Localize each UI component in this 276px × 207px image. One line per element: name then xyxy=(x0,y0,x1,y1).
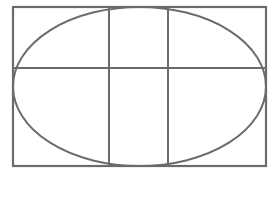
inscribed-ellipse xyxy=(13,7,266,166)
diagram-canvas xyxy=(0,0,276,207)
ellipse-in-rectangle-figure xyxy=(0,0,276,207)
